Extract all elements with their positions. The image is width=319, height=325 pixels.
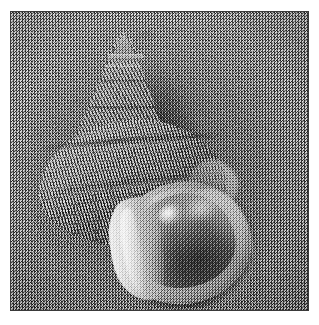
seashell (11, 12, 308, 310)
photograph-frame (10, 11, 309, 311)
